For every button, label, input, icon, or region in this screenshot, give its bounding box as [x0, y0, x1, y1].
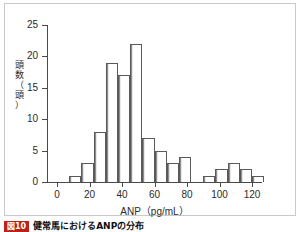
y-axis-title: 頭数（頭）	[12, 60, 26, 110]
y-axis-tick	[42, 88, 47, 89]
histogram-bar	[228, 163, 240, 182]
y-axis-tick	[42, 151, 47, 152]
x-axis-tick	[252, 182, 253, 187]
x-axis-tick-label: 120	[232, 190, 272, 200]
histogram-bar	[167, 163, 179, 182]
x-axis-tick	[122, 182, 123, 187]
x-axis-title: ANP（pg/mL）	[47, 203, 262, 218]
histogram-bar	[240, 169, 252, 182]
y-axis-tick	[42, 182, 47, 183]
y-axis-tick	[42, 56, 47, 57]
histogram-bar	[130, 44, 142, 182]
x-axis-tick	[57, 182, 58, 187]
histogram-bar	[252, 176, 264, 182]
x-axis-tick	[90, 182, 91, 187]
y-axis-tick-label: 5	[0, 146, 38, 156]
histogram-plot-area: 0510152025 020406080100120 頭数（頭） ANP（pg/…	[0, 0, 301, 232]
histogram-bar	[81, 163, 93, 182]
x-axis-tick	[220, 182, 221, 187]
figure-root: 0510152025 020406080100120 頭数（頭） ANP（pg/…	[0, 0, 301, 232]
histogram-bar	[179, 157, 191, 182]
y-axis-tick-label: 25	[0, 20, 38, 30]
y-axis-tick	[42, 119, 47, 120]
histogram-bar	[142, 138, 154, 182]
y-axis-title-char: 頭	[12, 90, 26, 100]
histogram-bar	[155, 151, 167, 182]
histogram-bar	[203, 176, 215, 182]
y-axis-tick	[42, 25, 47, 26]
y-axis-tick-label: 10	[0, 114, 38, 124]
histogram-bar	[118, 75, 130, 182]
y-axis-tick-label: 0	[0, 177, 38, 187]
y-axis-title-char: （	[12, 80, 26, 90]
y-axis-title-char: ）	[12, 100, 26, 110]
y-axis-title-char: 数	[12, 70, 26, 80]
figure-number-badge: 図10	[4, 221, 29, 232]
histogram-bar	[106, 63, 118, 182]
histogram-bar	[215, 169, 227, 182]
x-axis-tick	[155, 182, 156, 187]
histogram-bar	[94, 132, 106, 182]
x-axis-tick	[187, 182, 188, 187]
figure-caption-text: 健常馬におけるANPの分布	[33, 221, 144, 231]
histogram-bar	[69, 176, 81, 182]
figure-caption: 図10 健常馬におけるANPの分布	[4, 220, 297, 232]
y-axis-line	[47, 25, 48, 183]
y-axis-title-char: 頭	[12, 60, 26, 70]
